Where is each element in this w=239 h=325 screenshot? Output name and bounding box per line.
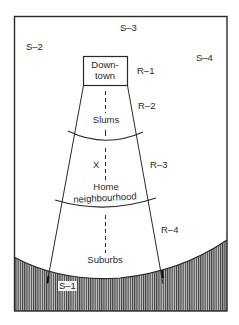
ring-label-r2: R–2 xyxy=(138,101,155,111)
sector-label-s1: S–1 xyxy=(58,281,77,291)
corridor-left-end-mark xyxy=(48,276,49,283)
zone-label-downtown-line1: Down- xyxy=(91,60,118,70)
sector-s1-hatched-area xyxy=(14,240,227,311)
corridor-left-edge xyxy=(47,86,84,285)
sector-label-s4: S–4 xyxy=(196,53,213,63)
ring-label-r1: R–1 xyxy=(137,66,154,76)
corridor-right-edge xyxy=(128,86,164,285)
home-location-marker: X xyxy=(93,160,99,170)
sector-label-s3: S–3 xyxy=(120,23,137,33)
zone-label-slums: Slums xyxy=(93,115,119,125)
ring-label-r3: R–3 xyxy=(150,160,167,170)
sector-label-s2: S–2 xyxy=(26,42,43,52)
zone-label-suburbs: Suburbs xyxy=(87,255,122,265)
zone-label-downtown-line2: town xyxy=(95,71,115,81)
ring-label-r4: R–4 xyxy=(161,225,178,235)
corridor-right-end-mark xyxy=(162,270,163,278)
